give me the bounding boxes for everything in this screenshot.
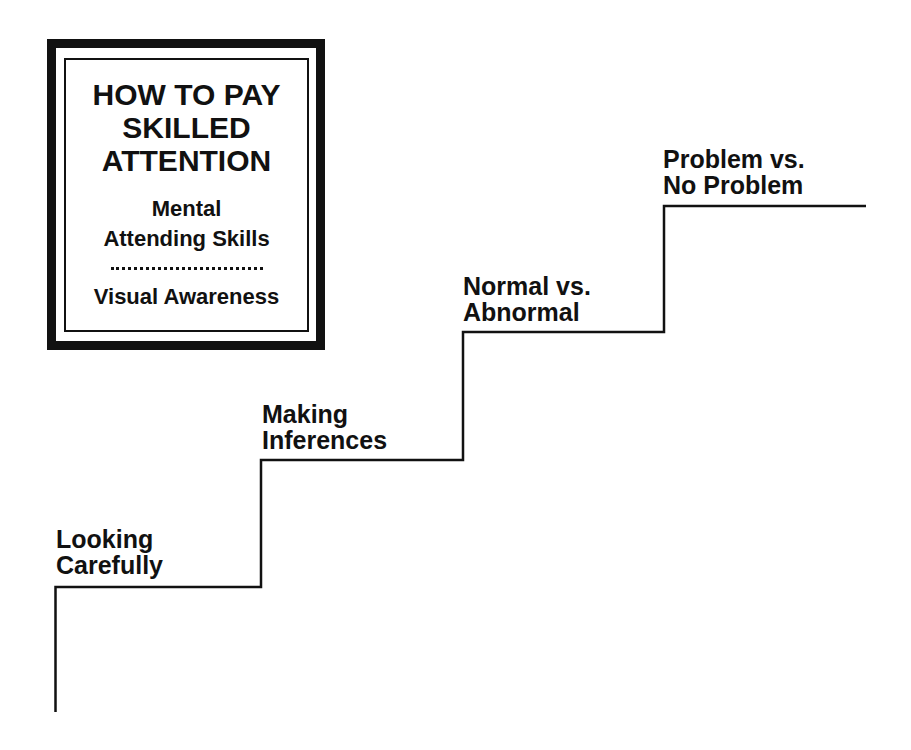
step-label-making-inferences: Making Inferences [262,401,387,453]
staircase-line [0,0,911,750]
staircase-path [56,206,867,712]
step-1-line-2: Carefully [56,552,163,578]
step-label-problem-vs-no-problem: Problem vs. No Problem [663,146,805,198]
step-label-normal-vs-abnormal: Normal vs. Abnormal [463,273,591,325]
step-label-looking-carefully: Looking Carefully [56,526,163,578]
step-1-line-1: Looking [56,526,163,552]
step-2-line-2: Inferences [262,427,387,453]
step-4-line-2: No Problem [663,172,805,198]
step-3-line-1: Normal vs. [463,273,591,299]
step-2-line-1: Making [262,401,387,427]
step-3-line-2: Abnormal [463,299,591,325]
step-4-line-1: Problem vs. [663,146,805,172]
